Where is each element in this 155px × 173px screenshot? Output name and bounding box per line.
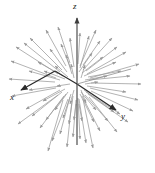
x-axis-label: x [10,93,14,102]
vector-field-figure: z x y [0,0,155,173]
radial-vector-arrows [9,27,141,151]
coordinate-axes [21,18,131,145]
z-axis-label: z [73,2,77,11]
vector-field-canvas [0,0,155,173]
y-axis-label: y [121,112,125,121]
